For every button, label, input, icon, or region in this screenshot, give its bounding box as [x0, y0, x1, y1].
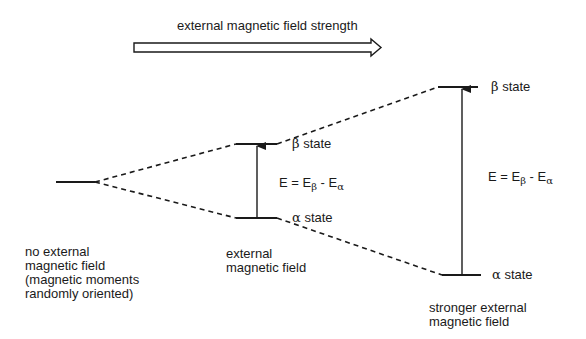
beta-symbol: β: [292, 136, 300, 151]
field-alpha-label: α state: [292, 211, 333, 225]
alpha-symbol: α: [292, 210, 301, 225]
field-beta-label: β state: [292, 137, 331, 151]
strong-field-beta-label: β state: [491, 80, 530, 94]
field-strength-arrow-icon: [134, 39, 381, 56]
alpha-symbol: α: [492, 267, 501, 282]
field-caption: external magnetic field: [226, 247, 306, 275]
field-energy-label: E = Eβ - Eα: [279, 176, 344, 190]
field-strength-title: external magnetic field strength: [177, 19, 358, 33]
strong-field-energy-label: E = Eβ - Eα: [488, 170, 553, 184]
strong-field-alpha-label: α state: [492, 268, 533, 282]
no-field-caption: no external magnetic field (magnetic mom…: [25, 245, 139, 301]
beta-symbol: β: [491, 79, 499, 94]
strong-field-caption: stronger external magnetic field: [429, 301, 527, 329]
